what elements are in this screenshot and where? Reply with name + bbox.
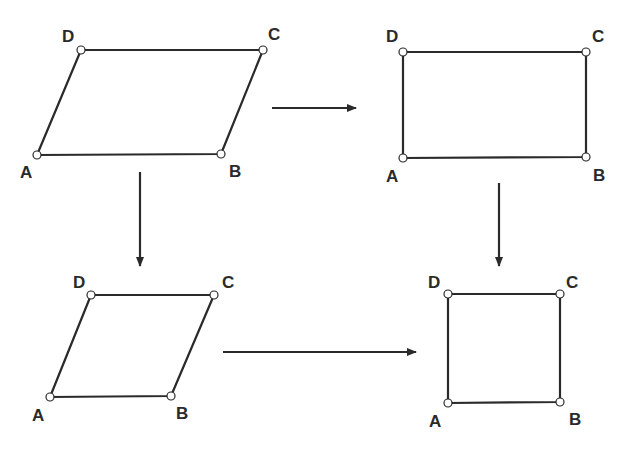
square-vertex-b <box>556 398 564 406</box>
rhombus-outline <box>50 295 214 397</box>
parallelogram-outline <box>37 50 263 155</box>
shape-square: ABCD <box>428 273 581 431</box>
parallelogram-label-a: A <box>20 163 32 182</box>
rhombus-label-d: D <box>73 273 85 292</box>
rhombus-label-a: A <box>32 406 44 425</box>
rectangle-label-a: A <box>386 167 398 186</box>
rectangle-vertex-b <box>582 153 590 161</box>
shape-parallelogram: ABCD <box>20 25 280 182</box>
rhombus-vertex-c <box>210 291 218 299</box>
shape-rectangle: ABCD <box>386 27 605 186</box>
rhombus-vertex-a <box>46 393 54 401</box>
parallelogram-vertex-c <box>259 46 267 54</box>
rhombus-vertex-b <box>167 392 175 400</box>
square-outline <box>448 294 560 403</box>
rectangle-vertex-d <box>399 48 407 56</box>
rectangle-outline <box>403 52 586 158</box>
arrows <box>140 108 499 352</box>
rectangle-label-c: C <box>592 27 604 46</box>
rhombus-label-c: C <box>222 273 234 292</box>
parallelogram-label-c: C <box>268 25 280 44</box>
square-label-a: A <box>429 412 441 431</box>
square-label-c: C <box>566 273 578 292</box>
square-label-d: D <box>428 273 440 292</box>
square-label-b: B <box>569 410 581 429</box>
quadrilateral-transformation-diagram: ABCDABCDABCDABCD <box>0 0 626 450</box>
rectangle-vertex-a <box>399 154 407 162</box>
rectangle-vertex-c <box>582 48 590 56</box>
square-vertex-c <box>556 290 564 298</box>
parallelogram-label-d: D <box>62 27 74 46</box>
shape-rhombus: ABCD <box>32 273 234 425</box>
shapes: ABCDABCDABCDABCD <box>20 25 605 431</box>
rhombus-vertex-d <box>87 291 95 299</box>
parallelogram-vertex-a <box>33 151 41 159</box>
parallelogram-vertex-d <box>77 46 85 54</box>
rhombus-label-b: B <box>176 404 188 423</box>
diagram-svg: ABCDABCDABCDABCD <box>0 0 626 450</box>
parallelogram-vertex-b <box>217 150 225 158</box>
rectangle-label-b: B <box>593 166 605 185</box>
rectangle-label-d: D <box>386 27 398 46</box>
parallelogram-label-b: B <box>229 162 241 181</box>
square-vertex-a <box>444 399 452 407</box>
square-vertex-d <box>444 290 452 298</box>
